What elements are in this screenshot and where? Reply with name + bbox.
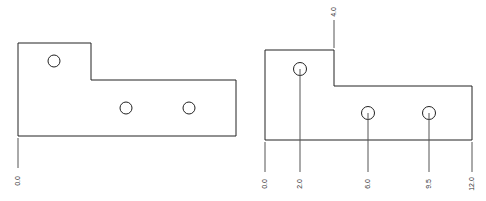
hole-1 xyxy=(48,55,60,67)
extension-lines xyxy=(265,20,472,172)
hole-3 xyxy=(183,102,195,114)
dim-label-2: 6.0 xyxy=(364,179,371,189)
dim-label-step: 4.0 xyxy=(330,7,337,17)
dim-label-3: 9.5 xyxy=(425,179,432,189)
dim-label-4: 12.0 xyxy=(468,177,475,191)
right-figure xyxy=(265,20,472,172)
dim-label-0: 0.0 xyxy=(261,179,268,189)
plate-outline xyxy=(18,43,236,136)
drawing-canvas: 0.0 0.0 2.0 6.0 9.5 12.0 4.0 xyxy=(0,0,486,201)
left-figure xyxy=(18,43,236,168)
dim-label-1: 2.0 xyxy=(296,179,303,189)
hole-2 xyxy=(120,102,132,114)
origin-label: 0.0 xyxy=(14,176,21,186)
